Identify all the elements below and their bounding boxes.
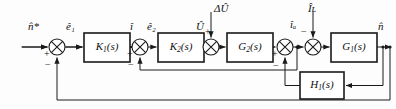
signal-label-e2: ê₂ bbox=[147, 20, 156, 32]
signal-label-i: î bbox=[130, 20, 133, 32]
block-label-K2: K2(s) bbox=[163, 40, 199, 54]
block-label-G2: G2(s) bbox=[232, 40, 268, 54]
block-label-K1: K1(s) bbox=[89, 40, 125, 54]
sign-sum2-minus: − bbox=[128, 59, 134, 70]
signal-label-reference-speed: n̂* bbox=[28, 20, 39, 32]
signal-label-e1: ê₁ bbox=[66, 20, 75, 32]
node-n-h1 bbox=[381, 45, 384, 48]
block-label-H1: H1(s) bbox=[304, 78, 340, 92]
sign-sum4-minus: − bbox=[273, 60, 279, 71]
signal-label-ia: îₐ bbox=[290, 18, 296, 30]
sign-sum2-plus: + bbox=[127, 48, 133, 59]
diagram-canvas bbox=[0, 0, 396, 109]
block-label-G1: G1(s) bbox=[336, 40, 372, 54]
signal-label-n-output: n̂ bbox=[378, 20, 384, 32]
sign-sum5-minus: − bbox=[301, 26, 307, 37]
sign-sum1-plus: + bbox=[44, 48, 50, 59]
sign-sum4-plus: + bbox=[272, 48, 278, 59]
node-ia bbox=[295, 45, 298, 48]
sign-sum1-minus: − bbox=[45, 59, 51, 70]
signal-label-delta-U: ΔÛ bbox=[214, 2, 228, 14]
sign-sum3-plus: + bbox=[205, 26, 211, 37]
control-block-diagram: K1(s) K2(s) G2(s) G1(s) H1(s) n̂* ê₁ î ê… bbox=[0, 0, 396, 109]
signal-label-U: Û bbox=[196, 20, 204, 32]
signal-label-IL: Îʟ bbox=[308, 2, 316, 14]
node-n-outer bbox=[388, 45, 391, 48]
